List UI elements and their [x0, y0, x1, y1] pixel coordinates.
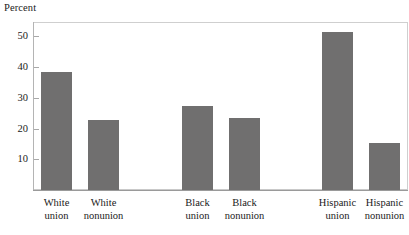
x-axis-label-line2: nonunion — [69, 209, 139, 222]
x-axis-label: Whitenonunion — [69, 196, 139, 222]
x-axis-label: Blacknonunion — [210, 196, 280, 222]
x-axis-label-line2: nonunion — [350, 209, 409, 222]
bar — [88, 120, 119, 190]
bar-chart: Percent 1020304050 WhiteunionWhitenonuni… — [0, 0, 409, 235]
x-axis-label-line1: White — [69, 196, 139, 209]
x-axis-label-line1: Black — [210, 196, 280, 209]
x-axis-label-line2: nonunion — [210, 209, 280, 222]
bars-group — [0, 0, 409, 191]
bar — [229, 118, 260, 190]
x-axis-label: Hispanicnonunion — [350, 196, 409, 222]
bar — [369, 143, 400, 190]
bar — [41, 72, 72, 190]
bar — [322, 32, 353, 190]
x-axis-label-line1: Hispanic — [350, 196, 409, 209]
bar — [182, 106, 213, 190]
